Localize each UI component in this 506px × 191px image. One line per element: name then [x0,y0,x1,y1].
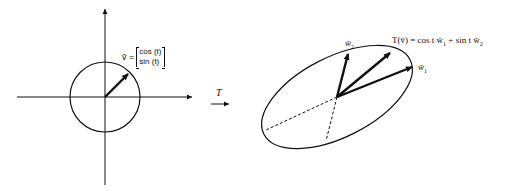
dashed-w2-extension [326,97,337,141]
dashed-w1-extension [266,97,337,130]
vector-v-label: v̄ = cos (t) sin (t) [122,47,165,67]
w1-label: w̄1 [418,62,427,74]
vector-T-v [337,53,390,97]
T-v-equation-sub2: 2 [480,41,483,47]
T-v-equation-part2: + sin t w̄ [446,35,480,45]
transform-label: T [216,88,222,98]
diagram-canvas [0,0,506,191]
T-v-equation: T(v̄) = cos t w̄1 + sin t w̄2 [392,36,483,47]
T-v-equation-part1: T(v̄) = cos t w̄ [392,35,443,45]
w1-label-sub: 1 [424,68,427,74]
vector-v-label-prefix: v̄ = [122,53,134,62]
vector-v [105,74,128,97]
vector-w1 [337,67,412,97]
coordinate-axes [17,9,192,185]
vector-v-matrix: cos (t) sin (t) [136,47,164,67]
matrix-row-sin: sin (t) [139,57,161,67]
w2-label-sub: 2 [351,44,354,50]
matrix-row-cos: cos (t) [139,47,161,57]
w2-label: w̄2 [345,38,354,50]
